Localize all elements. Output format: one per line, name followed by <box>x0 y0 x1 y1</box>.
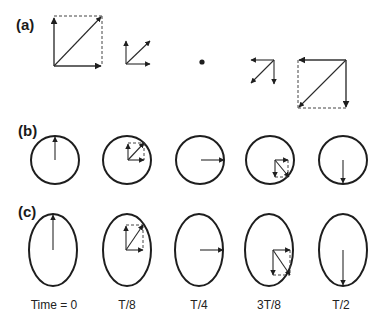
time-axis-labels: Time = 0 T/8 T/4 3T/8 T/2 <box>31 298 350 312</box>
panel-b-circle-t4 <box>176 136 224 184</box>
time-label-t2: T/2 <box>332 298 350 312</box>
time-label-3t8: 3T/8 <box>257 298 281 312</box>
panel-label-c: (c) <box>18 203 36 220</box>
panel-a-vector-t2 <box>298 60 346 108</box>
panel-c-ellipse-t4 <box>175 214 223 286</box>
resultant-arrow <box>54 17 101 66</box>
resultant-arrow <box>251 60 274 83</box>
panel-b-circle-3t8 <box>246 136 294 184</box>
panel-b-circle-t0 <box>31 136 79 184</box>
panel-c-ellipse-t0 <box>29 214 77 286</box>
field-vector-arrow <box>273 250 290 275</box>
polarization-diagram: (a) (b) <box>0 0 387 323</box>
panel-label-a: (a) <box>16 16 34 33</box>
panel-a-vector-t0 <box>54 16 102 66</box>
panel-c-ellipse-3t8 <box>245 214 293 286</box>
time-label-0: Time = 0 <box>31 298 78 312</box>
time-label-t8: T/8 <box>118 298 136 312</box>
panel-b-circle-t8 <box>103 136 151 184</box>
panel-label-b: (b) <box>18 122 37 139</box>
field-vector-arrow <box>126 225 143 250</box>
panel-c-ellipse-t2 <box>319 214 367 286</box>
panel-a-vector-3t8 <box>251 60 274 84</box>
resultant-arrow <box>126 41 150 64</box>
field-vector-arrow <box>128 143 144 160</box>
resultant-arrow <box>299 60 346 107</box>
panel-b-circle-t2 <box>319 136 367 184</box>
null-vector-dot <box>199 59 204 64</box>
time-label-t4: T/4 <box>190 298 208 312</box>
field-vector-arrow <box>275 160 289 177</box>
panel-a-vector-t8 <box>126 41 150 64</box>
panel-c-ellipse-t8 <box>103 214 151 286</box>
